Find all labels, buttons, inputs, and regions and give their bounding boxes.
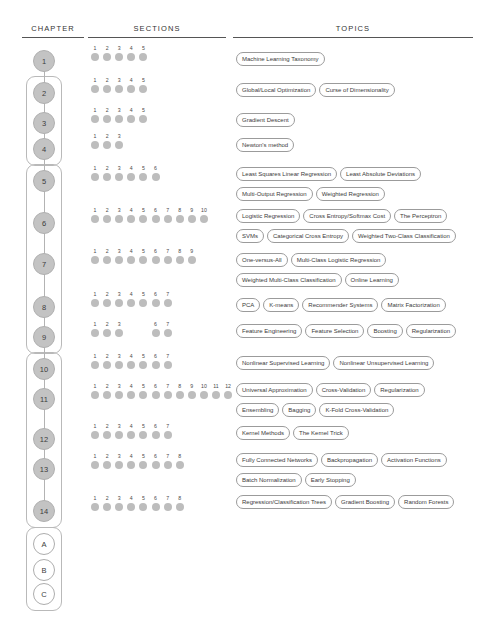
topic-pill[interactable]: Bagging (282, 403, 316, 418)
topic-pill[interactable]: Multi-Output Regression (236, 187, 313, 202)
section-dot-icon (103, 256, 111, 264)
chapter-node-1[interactable]: 1 (33, 50, 55, 72)
topic-pill[interactable]: Fully Connected Networks (236, 453, 318, 468)
section-number-label: 10 (197, 207, 211, 214)
chapter-node-4[interactable]: 4 (33, 138, 55, 160)
topic-pill[interactable]: Random Forests (398, 495, 454, 510)
chapter-node-6[interactable]: 6 (33, 212, 55, 234)
section-dot-icon (127, 215, 135, 223)
topic-pill[interactable]: Nonlinear Unsupervised Learning (333, 356, 434, 371)
topic-pill[interactable]: Gradient Descent (236, 113, 295, 128)
topic-pill[interactable]: Activation Functions (381, 453, 447, 468)
section-item-11-12[interactable]: 12 (221, 383, 235, 399)
topic-pill[interactable]: Regression/Classification Trees (236, 495, 332, 510)
section-item-3-5[interactable]: 5 (136, 107, 150, 123)
section-item-12-7[interactable]: 7 (161, 423, 175, 439)
section-number-label: 5 (136, 45, 150, 52)
section-item-14-8[interactable]: 8 (173, 495, 187, 511)
topic-pill[interactable]: Kernel Methods (236, 426, 290, 441)
topic-pill[interactable]: PCA (236, 298, 260, 313)
topic-line: Least Squares Linear RegressionLeast Abs… (236, 164, 488, 182)
topic-pill[interactable]: Cross-Validation (316, 383, 372, 398)
section-dot-icon (91, 361, 99, 369)
topic-pill[interactable]: Curse of Dimensionality (319, 83, 394, 98)
chapter-node-8[interactable]: 8 (33, 296, 55, 318)
section-item-10-7[interactable]: 7 (161, 353, 175, 369)
section-dot-icon (91, 299, 99, 307)
topic-pill[interactable]: The Kernel Trick (293, 426, 349, 441)
section-dot-icon (152, 329, 160, 337)
chapter-link-line (44, 408, 46, 430)
section-item-4-3[interactable]: 3 (112, 133, 126, 149)
topic-pill[interactable]: Backpropagation (321, 453, 378, 468)
topic-pill[interactable]: Categorical Cross Entropy (267, 229, 349, 244)
sections-column: 1234512345123451231234561234567891012345… (88, 0, 233, 618)
topic-pill[interactable]: Boosting (367, 324, 402, 339)
topic-pill[interactable]: Least Squares Linear Regression (236, 167, 337, 182)
chapter-node-14[interactable]: 14 (33, 500, 55, 522)
topic-pill[interactable]: Batch Normalization (236, 473, 302, 488)
topic-pill[interactable]: Ensembling (236, 403, 279, 418)
topic-group-chapter-1: Machine Learning Taxonomy (236, 49, 488, 69)
section-dot-icon (91, 503, 99, 511)
topic-pill[interactable]: Nonlinear Supervised Learning (236, 356, 330, 371)
section-dot-icon (103, 461, 111, 469)
topic-pill[interactable]: Feature Selection (305, 324, 364, 339)
topic-pill[interactable]: Weighted Multi-Class Classification (236, 273, 342, 288)
chapter-node-7[interactable]: 7 (33, 253, 55, 275)
chapter-node-11[interactable]: 11 (33, 388, 55, 410)
topic-pill[interactable]: Online Learning (345, 273, 399, 288)
section-dot-icon (127, 391, 135, 399)
topic-pill[interactable]: Weighted Regression (316, 187, 385, 202)
chapter-node-3[interactable]: 3 (33, 112, 55, 134)
section-dot-icon (164, 256, 172, 264)
section-item-7-9[interactable]: 9 (185, 248, 199, 264)
appendix-node-b[interactable]: B (33, 559, 55, 581)
topic-pill[interactable]: Cross Entropy/Softmax Cost (303, 209, 391, 224)
topic-pill[interactable]: Matrix Factorization (381, 298, 445, 313)
appendix-node-c[interactable]: C (33, 583, 55, 605)
chapter-node-13[interactable]: 13 (33, 458, 55, 480)
section-item-8-7[interactable]: 7 (161, 291, 175, 307)
topic-pill[interactable]: Regularization (406, 324, 456, 339)
section-dot-icon (91, 115, 99, 123)
topic-pill[interactable]: Early Stopping (305, 473, 356, 488)
topic-pill[interactable]: Multi-Class Logistic Regression (291, 253, 387, 268)
chapter-node-10[interactable]: 10 (33, 358, 55, 380)
topic-pill[interactable]: Universal Approximation (236, 383, 313, 398)
topic-pill[interactable]: Recommender Systems (302, 298, 378, 313)
chapter-node-12[interactable]: 12 (33, 428, 55, 450)
section-dot-icon (176, 256, 184, 264)
topic-pill[interactable]: Weighted Two-Class Classification (352, 229, 456, 244)
topic-pill[interactable]: Gradient Boosting (335, 495, 395, 510)
topic-pill[interactable]: K-means (263, 298, 299, 313)
chapter-node-5[interactable]: 5 (33, 170, 55, 192)
topic-pill[interactable]: Global/Local Optimization (236, 83, 316, 98)
topic-pill[interactable]: Feature Engineering (236, 324, 302, 339)
topic-group-chapter-5: Least Squares Linear RegressionLeast Abs… (236, 164, 488, 204)
section-dot-icon (115, 329, 123, 337)
section-item-6-10[interactable]: 10 (197, 207, 211, 223)
section-item-9-7[interactable]: 7 (161, 321, 175, 337)
appendix-node-a[interactable]: A (33, 533, 55, 555)
section-item-5-6[interactable]: 6 (149, 165, 163, 181)
section-dot-icon (127, 85, 135, 93)
section-item-1-5[interactable]: 5 (136, 45, 150, 61)
topic-pill[interactable]: SVMs (236, 229, 264, 244)
section-item-13-8[interactable]: 8 (173, 453, 187, 469)
topic-pill[interactable]: K-Fold Cross-Validation (319, 403, 394, 418)
topic-pill[interactable]: The Perceptron (394, 209, 447, 224)
topic-pill[interactable]: Newton's method (236, 138, 294, 153)
topic-pill[interactable]: One-versus-All (236, 253, 288, 268)
topic-pill[interactable]: Regularization (374, 383, 424, 398)
section-dot-icon (139, 361, 147, 369)
section-dot-icon (91, 85, 99, 93)
topic-pill[interactable]: Machine Learning Taxonomy (236, 52, 325, 67)
section-number-label: 9 (185, 248, 199, 255)
chapter-node-9[interactable]: 9 (33, 326, 55, 348)
topic-pill[interactable]: Logistic Regression (236, 209, 300, 224)
chapter-node-2[interactable]: 2 (33, 82, 55, 104)
section-item-2-5[interactable]: 5 (136, 77, 150, 93)
topic-pill[interactable]: Least Absolute Deviations (340, 167, 421, 182)
section-dot-icon (188, 391, 196, 399)
